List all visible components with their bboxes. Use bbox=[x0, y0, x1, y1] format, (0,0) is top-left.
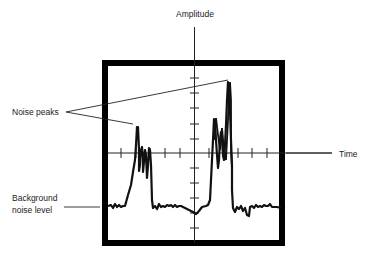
noise-peaks-label: Noise peaks bbox=[12, 107, 59, 117]
amplitude-label: Amplitude bbox=[176, 9, 214, 19]
background-noise-label-line1: Background bbox=[12, 193, 58, 203]
noise-peaks-leaders bbox=[66, 80, 228, 124]
amplitude-time-diagram: Amplitude Time Noise peaks Background no… bbox=[0, 0, 367, 256]
time-label: Time bbox=[339, 149, 358, 159]
background-noise-label-line2: noise level bbox=[12, 205, 52, 215]
